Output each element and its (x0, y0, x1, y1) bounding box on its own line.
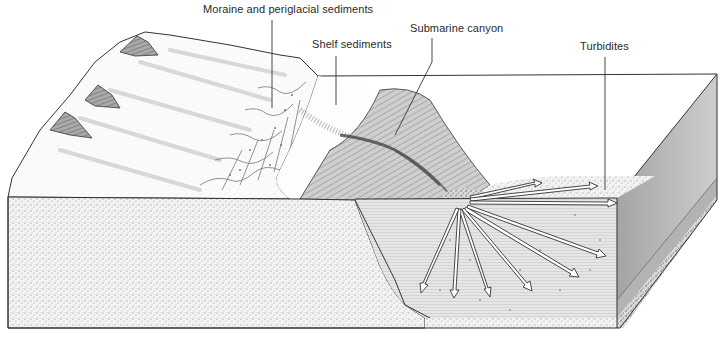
label-turbidites: Turbidites (580, 40, 629, 52)
block-front-face (8, 197, 620, 328)
label-moraine: Moraine and periglacial sediments (203, 3, 373, 15)
label-submarine-canyon: Submarine canyon (410, 22, 503, 34)
sea-surface (318, 74, 717, 76)
block-side-face (617, 74, 717, 328)
label-shelf-sediments: Shelf sediments (312, 38, 392, 50)
